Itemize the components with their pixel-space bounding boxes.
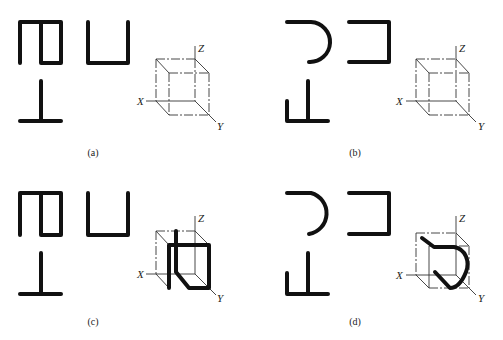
axonometric-cube: Z X Y [136, 42, 225, 132]
front-view [20, 193, 61, 235]
side-view [88, 22, 128, 63]
x-axis-label: X [395, 269, 404, 281]
y-axis-label: Y [217, 292, 225, 304]
panel-c: Z X Y (c) [20, 193, 225, 328]
top-view [287, 81, 328, 121]
top-view [20, 253, 61, 294]
three-view-projection-diagram: Z X Y (a) [0, 0, 503, 340]
axonometric-cube: Z X Y [395, 42, 486, 132]
top-view [287, 253, 328, 294]
x-axis-label: X [395, 95, 404, 107]
panel-a: Z X Y (a) [20, 22, 225, 159]
front-view [20, 22, 61, 63]
axonometric-cube: Z X Y [136, 212, 225, 304]
y-axis-label: Y [478, 120, 486, 132]
z-axis-label: Z [459, 42, 466, 54]
front-view [287, 193, 327, 234]
top-view [20, 81, 61, 121]
caption-a: (a) [87, 147, 98, 159]
x-axis-label: X [136, 95, 145, 107]
panel-b: Z X Y (b) [287, 22, 486, 159]
panel-d: Z X Y (d) [287, 193, 486, 328]
side-view [349, 193, 389, 234]
side-view [349, 22, 389, 62]
x-axis-label: X [136, 268, 145, 280]
side-view [88, 193, 128, 235]
y-axis-label: Y [478, 292, 486, 304]
y-axis-label: Y [217, 120, 225, 132]
front-view [287, 22, 330, 62]
axonometric-cube: Z X Y [395, 212, 486, 304]
caption-d: (d) [349, 316, 361, 328]
caption-b: (b) [349, 147, 361, 159]
z-axis-label: Z [459, 212, 466, 224]
z-axis-label: Z [198, 212, 205, 224]
z-axis-label: Z [198, 42, 205, 54]
caption-c: (c) [87, 316, 98, 328]
